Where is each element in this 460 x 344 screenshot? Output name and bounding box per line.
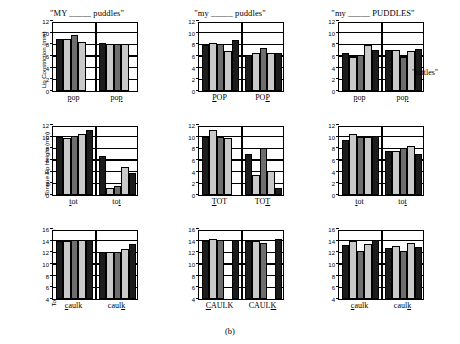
panel-title: "my _____ PUDDLES" [300, 8, 446, 18]
x-axis-labels: caulkcaulk [52, 301, 138, 315]
plot-area [52, 230, 138, 300]
y-tick-label: 10 [188, 135, 195, 141]
y-tick-label: 8 [46, 42, 49, 48]
y-tick-mark [336, 20, 339, 21]
bar [252, 175, 259, 195]
bar [99, 43, 106, 91]
y-tick-label: 10 [328, 262, 335, 268]
y-tick-label: 14 [328, 239, 335, 245]
y-tick-labels: 024681012 [300, 22, 336, 92]
x-axis-labels: tottot [338, 197, 424, 211]
plot-area [338, 22, 424, 92]
y-tick-label: 12 [42, 19, 49, 25]
y-tick-label: 10 [328, 135, 335, 141]
bar [106, 252, 113, 299]
y-tick-label: 4 [46, 66, 49, 72]
plot-area [198, 22, 284, 92]
y-tick-label: 8 [192, 42, 195, 48]
y-tick-labels: 46810121416 [14, 230, 50, 300]
bar [106, 188, 113, 195]
bar [78, 42, 85, 91]
x-axis-group-label: tot [69, 197, 77, 206]
bar [71, 35, 78, 91]
bar [392, 246, 399, 299]
y-tick-label: 8 [332, 42, 335, 48]
y-tick-mark [336, 228, 339, 229]
bars-layer [339, 127, 423, 195]
bar [342, 53, 349, 91]
bar [372, 240, 379, 299]
bar [121, 167, 128, 195]
panel-r1c2: 024681012tottot [300, 112, 446, 216]
plot-area [338, 126, 424, 196]
y-tick-label: 4 [332, 66, 335, 72]
y-tick-label: 16 [42, 227, 49, 233]
y-tick-mark [50, 20, 53, 21]
y-tick-label: 2 [332, 181, 335, 187]
bar [86, 240, 93, 300]
y-tick-label: 12 [328, 123, 335, 129]
panel-r0c1: "my _____ puddles"024681012POPPOP [160, 8, 300, 112]
y-tick-label: 6 [46, 54, 49, 60]
y-tick-mark [196, 124, 199, 125]
x-axis-group-label: caulk [108, 301, 125, 310]
y-tick-label: 12 [188, 250, 195, 256]
bars-layer [339, 231, 423, 299]
y-tick-mark [50, 124, 53, 125]
bar [349, 57, 356, 91]
bar [86, 130, 93, 195]
y-tick-labels: 024681012 [300, 126, 336, 196]
y-tick-label: 6 [332, 54, 335, 60]
bars-layer [199, 231, 283, 299]
bar [415, 154, 422, 195]
bar [357, 251, 364, 299]
bar [99, 156, 106, 195]
bar [260, 148, 267, 195]
y-tick-label: 6 [332, 285, 335, 291]
bar [63, 138, 70, 195]
x-axis-group-label: tot [355, 197, 363, 206]
bar [385, 248, 392, 299]
bar [364, 137, 371, 195]
bar [392, 151, 399, 195]
x-axis-labels: POPPOP [198, 93, 284, 107]
y-tick-label: 0 [192, 89, 195, 95]
panel-r2c1: 46810121416CAULKCAULK [160, 216, 300, 320]
bar [245, 241, 252, 299]
bar [224, 138, 231, 195]
side-note-tuttles: "tuttles" [412, 68, 438, 77]
y-tick-mark [196, 228, 199, 229]
y-tick-label: 4 [46, 297, 49, 303]
bar [129, 244, 136, 299]
y-tick-labels: 024681012 [160, 126, 196, 196]
bar [224, 51, 231, 91]
bar [415, 247, 422, 299]
y-tick-label: 0 [192, 193, 195, 199]
panel-r2c0: Tongue Dorsum Height (mm)46810121416caul… [14, 216, 160, 320]
x-axis-group-label: POP [212, 93, 227, 102]
y-tick-labels: 46810121416 [300, 230, 336, 300]
panel-r0c0: "MY _____ puddles"Lip Constriction (mm)0… [14, 8, 160, 112]
bar [202, 241, 209, 299]
bar [232, 40, 239, 91]
y-tick-label: 2 [46, 181, 49, 187]
plot-area [52, 126, 138, 196]
x-axis-group-label: TOT [212, 197, 227, 206]
bar [392, 50, 399, 91]
panel-r2c2: 46810121416caulkcaulk [300, 216, 446, 320]
bar [114, 252, 121, 299]
bar [252, 241, 259, 299]
bar [56, 39, 63, 91]
bar [217, 137, 224, 195]
x-axis-group-label: caulk [65, 301, 82, 310]
y-tick-label: 8 [192, 274, 195, 280]
y-tick-label: 6 [192, 285, 195, 291]
y-tick-label: 12 [188, 123, 195, 129]
plot-area [52, 22, 138, 92]
y-tick-label: 10 [42, 262, 49, 268]
bar [385, 151, 392, 195]
bar [121, 44, 128, 91]
bar [342, 245, 349, 299]
y-tick-label: 0 [46, 89, 49, 95]
bar [114, 186, 121, 195]
